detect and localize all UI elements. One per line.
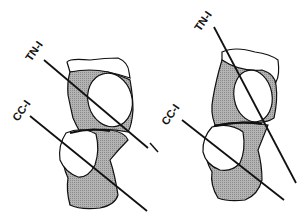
left-panel: TN-I CC-I xyxy=(10,39,148,211)
cc-i-label-right: CC-I xyxy=(159,102,182,127)
cc-i-label-left: CC-I xyxy=(10,98,33,123)
tn-i-label-left: TN-I xyxy=(23,39,45,63)
foot-bones-diagram: TN-I CC-I TN-I CC-I xyxy=(0,0,301,220)
diagram-canvas: TN-I CC-I TN-I CC-I xyxy=(0,0,301,220)
tn-i-label-right: TN-I xyxy=(192,9,214,33)
stray-mark xyxy=(150,143,158,152)
right-panel: TN-I CC-I xyxy=(159,9,296,201)
